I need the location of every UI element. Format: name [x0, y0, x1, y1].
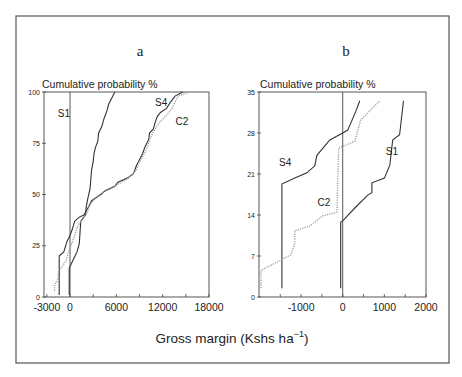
x-tick-label: -3000: [33, 301, 60, 313]
y-axis-label: Cumulative probability %: [42, 78, 158, 90]
x-tick-label: 0: [340, 301, 346, 313]
y-tick-label: 28: [247, 130, 255, 137]
series-label-c2: C2: [318, 197, 331, 208]
y-tick-label: 75: [32, 140, 40, 147]
y-tick-label: 0: [251, 294, 255, 301]
series-label-s1: S1: [58, 108, 71, 119]
series-s4-line: [282, 101, 360, 288]
y-tick-label: 14: [247, 212, 255, 219]
chart-a: aCumulative probability %0255075100-3000…: [28, 43, 223, 313]
series-s1-line: [341, 101, 404, 288]
x-tick-label: -1000: [288, 301, 315, 313]
y-tick-label: 25: [32, 242, 40, 249]
y-tick-label: 50: [32, 191, 40, 198]
x-tick-label: 2000: [414, 301, 438, 313]
chart-b: bCumulative probability %0714212835-1000…: [247, 43, 438, 313]
y-tick-label: 7: [251, 253, 255, 260]
x-tick-label: 1000: [373, 301, 397, 313]
y-tick-label: 0: [36, 294, 40, 301]
series-label-s1: S1: [386, 146, 399, 157]
y-tick-label: 100: [28, 89, 40, 96]
x-axis-label: Gross margin (Kshs ha−1): [156, 329, 309, 346]
series-label-c2: C2: [176, 116, 189, 127]
y-axis-label: Cumulative probability %: [260, 78, 376, 90]
series-label-s4: S4: [155, 97, 168, 108]
x-tick-label: 12000: [148, 301, 177, 313]
chart-title: a: [137, 43, 144, 59]
chart-title: b: [342, 43, 350, 59]
series-s1-line: [69, 92, 115, 295]
series-s4-line: [59, 92, 183, 295]
y-tick-label: 35: [247, 89, 255, 96]
series-c2-line: [261, 101, 380, 288]
x-tick-label: 6000: [105, 301, 129, 313]
series-label-s4: S4: [279, 157, 292, 168]
y-tick-label: 21: [247, 171, 255, 178]
x-tick-label: 18000: [194, 301, 223, 313]
series-c2-line: [55, 92, 190, 291]
figure: aCumulative probability %0255075100-3000…: [0, 0, 462, 377]
x-tick-label: 0: [67, 301, 73, 313]
